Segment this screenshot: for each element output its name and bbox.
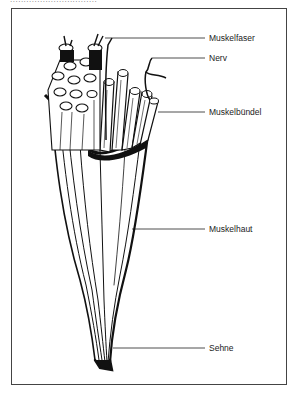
muscle-bundles	[100, 70, 159, 153]
label-sehne: Sehne	[209, 343, 234, 353]
label-muskelbuendel: Muskelbündel	[209, 107, 261, 117]
label-nerv: Nerv	[209, 53, 227, 63]
muscle-fiber-cluster	[48, 44, 102, 150]
label-muskelhaut: Muskelhaut	[209, 224, 252, 234]
muscle-illustration	[0, 0, 297, 398]
label-muskelfaser: Muskelfaser	[209, 33, 255, 43]
